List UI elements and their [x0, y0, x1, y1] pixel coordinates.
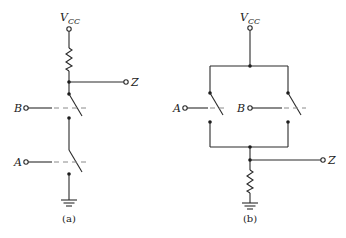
input-a-label-b: A [172, 102, 181, 115]
vcc-subscript-a: CC [68, 17, 80, 26]
resistor-icon [247, 170, 253, 193]
input-a-terminal-b [183, 106, 187, 110]
output-label-a: Z [130, 76, 139, 89]
vcc-terminal-b [248, 26, 252, 30]
caption-a: (a) [62, 213, 76, 224]
caption-b: (b) [243, 213, 257, 224]
input-a-label-a: A [13, 156, 22, 169]
resistor-icon [66, 48, 72, 71]
switch-a-icon [210, 93, 223, 115]
circuit-b: V CC A B Z [172, 11, 336, 224]
input-b-terminal-a [24, 106, 28, 110]
ground-icon [242, 203, 258, 209]
output-label-b: Z [327, 154, 336, 167]
switch-a-icon [69, 150, 82, 172]
input-b-label-a: B [13, 102, 22, 115]
circuit-a: V CC Z B A (a) [13, 11, 139, 224]
output-terminal-b [321, 158, 325, 162]
vcc-terminal-a [67, 27, 71, 31]
ground-icon [61, 200, 77, 206]
switch-b-icon [69, 94, 82, 116]
vcc-subscript-b: CC [248, 17, 260, 26]
output-terminal-a [124, 80, 128, 84]
input-a-terminal-a [24, 160, 28, 164]
input-b-label-b: B [236, 102, 245, 115]
circuit-diagram: V CC Z B A (a) [0, 0, 346, 238]
input-b-terminal-b [248, 106, 252, 110]
switch-b-icon [288, 93, 301, 115]
